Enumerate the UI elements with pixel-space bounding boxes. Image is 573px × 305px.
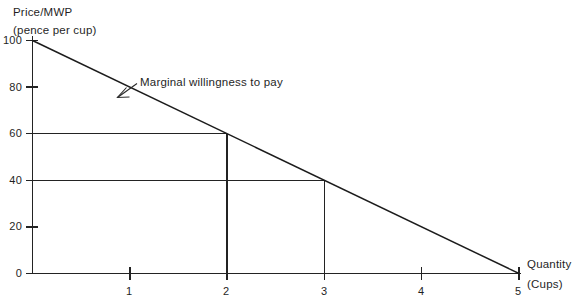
x-axis-title-line1: Quantity [527, 258, 571, 270]
x-axis-title-line2: (Cups) [527, 278, 563, 290]
x-tick-label-2: 2 [223, 285, 229, 297]
chart-plot-area [0, 0, 573, 305]
y-tick-label-0: 0 [0, 267, 22, 279]
x-tick-label-3: 3 [321, 285, 327, 297]
y-tick-label-60: 60 [0, 127, 22, 139]
y-tick-label-80: 80 [0, 81, 22, 93]
y-tick-label-20: 20 [0, 220, 22, 232]
mwp-demand-chart: Price/MWP (pence per cup) Quantity (Cups… [0, 0, 573, 305]
y-tick-label-100: 100 [0, 34, 22, 46]
y-axis-title-line1: Price/MWP [13, 6, 72, 18]
mwp-annotation-label: Marginal willingness to pay [140, 76, 283, 88]
annotation-arrow-head [118, 88, 130, 98]
x-tick-label-1: 1 [126, 285, 132, 297]
x-tick-label-4: 4 [418, 285, 424, 297]
y-tick-label-40: 40 [0, 174, 22, 186]
y-axis-title-line2: (pence per cup) [13, 24, 97, 36]
x-tick-label-5: 5 [515, 285, 521, 297]
